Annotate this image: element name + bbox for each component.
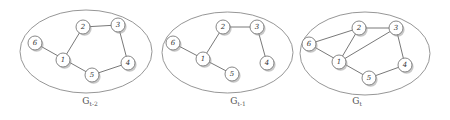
graph-label-subscript: t-2 — [89, 100, 97, 107]
dynamic-graph-diagram: 123456Gt-2 123456Gt-1 123456Gt — [0, 0, 450, 120]
node-1: 1 — [56, 53, 72, 69]
graph-label-subscript: t-1 — [237, 100, 245, 107]
node-2: 2 — [352, 21, 368, 37]
node-label: 1 — [201, 55, 205, 63]
graph-label: Gt-2 — [82, 96, 98, 107]
node-label: 5 — [230, 70, 235, 78]
node-label: 3 — [116, 21, 121, 29]
graph-t-minus-2: 123456Gt-2 — [20, 10, 152, 107]
node-label: 4 — [264, 59, 269, 67]
edge-1-3 — [339, 28, 396, 62]
node-label: 2 — [80, 23, 86, 31]
graph-label-main: G — [352, 96, 359, 106]
graph-t: 123456Gt — [300, 12, 430, 107]
node-label: 6 — [307, 40, 312, 48]
node-2: 2 — [76, 20, 92, 36]
node-2: 2 — [216, 20, 232, 36]
node-label: 1 — [61, 56, 65, 64]
graph-label: Gt — [352, 96, 362, 107]
node-5: 5 — [85, 68, 101, 84]
edge-6-2 — [309, 28, 359, 44]
node-label: 6 — [33, 39, 38, 47]
node-label: 5 — [90, 71, 95, 79]
graph-label-main: G — [230, 96, 237, 106]
node-label: 5 — [367, 74, 372, 82]
node-4: 4 — [121, 56, 137, 72]
node-6: 6 — [302, 37, 318, 53]
graph-label-main: G — [82, 96, 89, 106]
node-label: 3 — [255, 23, 260, 31]
node-3: 3 — [111, 18, 127, 34]
node-3: 3 — [250, 20, 266, 36]
node-label: 3 — [394, 24, 399, 32]
node-1: 1 — [332, 55, 348, 71]
node-1: 1 — [196, 52, 212, 68]
node-6: 6 — [28, 36, 44, 52]
node-label: 2 — [220, 23, 226, 31]
node-label: 2 — [356, 24, 362, 32]
node-6: 6 — [166, 36, 182, 52]
node-label: 4 — [402, 61, 407, 69]
node-5: 5 — [362, 71, 378, 87]
node-label: 6 — [171, 39, 176, 47]
graph-t-minus-1: 123456Gt-1 — [162, 12, 293, 107]
node-3: 3 — [389, 21, 405, 37]
node-4: 4 — [260, 56, 276, 72]
node-4: 4 — [398, 58, 414, 74]
graph-label: Gt-1 — [230, 96, 245, 107]
node-label: 1 — [337, 58, 341, 66]
node-5: 5 — [225, 67, 241, 83]
node-label: 4 — [125, 59, 130, 67]
graph-label-subscript: t — [359, 100, 362, 107]
